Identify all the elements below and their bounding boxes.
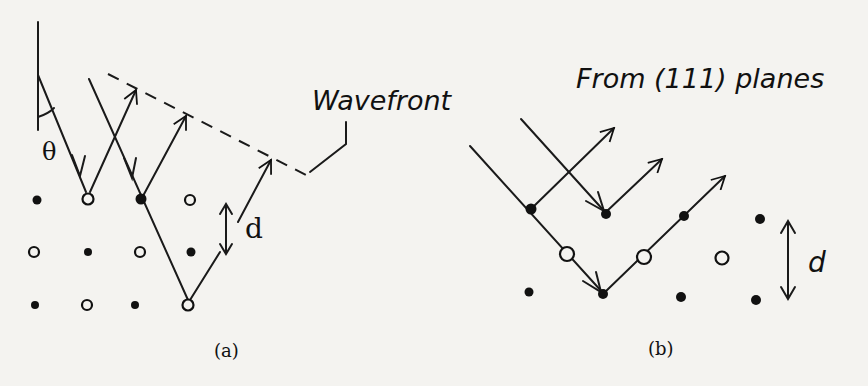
lattice-atom-open [82, 300, 92, 310]
panel-b-title: From (111) planes [576, 63, 824, 94]
lattice-atom-filled [601, 209, 611, 219]
reflected-ray-2 [143, 116, 186, 196]
wavefront-leader [310, 122, 346, 172]
panel-b-caption: (b) [648, 338, 674, 359]
lattice-atom-open [83, 194, 94, 205]
lattice-atom-filled [676, 292, 686, 302]
lattice-atom-open [135, 247, 145, 257]
wavefront-line [108, 74, 312, 178]
lattice-atom-filled [84, 248, 92, 256]
lattice-atom-filled [31, 301, 39, 309]
lattice-atom-filled [136, 194, 147, 205]
lattice-atom-filled [679, 211, 689, 221]
lattice-atom-filled [187, 248, 196, 257]
d-spacing-label: d [245, 212, 263, 245]
lattice-atom-filled [526, 204, 537, 215]
bragg-diffraction-diagram: θ Wavefront d [0, 0, 868, 386]
lattice-atom-filled [33, 196, 42, 205]
reflected-ray-2 [606, 159, 662, 212]
d-spacing-label: d [808, 246, 826, 279]
incident-ray-2 [89, 79, 188, 300]
lattice-atom-open [183, 300, 194, 311]
lattice-atom-open [560, 247, 574, 261]
panel-a-caption: (a) [214, 340, 239, 361]
reflected-ray-1 [531, 128, 614, 209]
lattice-atom-filled [755, 214, 765, 224]
lattice-atom-open [637, 250, 651, 264]
panel-a: θ Wavefront d [29, 22, 453, 361]
arrow-head-icon [124, 158, 136, 178]
lattice-atom-filled [525, 288, 534, 297]
wavefront-label: Wavefront [312, 85, 453, 116]
lattice-atom-filled [598, 289, 608, 299]
lattice-atom-open [185, 195, 195, 205]
incident-ray-1 [470, 146, 603, 293]
lattice-atom-filled [751, 295, 761, 305]
incident-ray-2 [521, 119, 605, 212]
lattice-atom-open [29, 247, 39, 257]
panel-b: From (111) planes d (b) [470, 63, 826, 359]
reflected-ray-3 [604, 176, 725, 293]
reflected-ray-3-lower [190, 252, 220, 300]
lattice-atom-open [716, 252, 729, 265]
reflected-ray-1 [90, 90, 136, 192]
lattice-atom-filled [131, 301, 139, 309]
arrow-head-icon [72, 155, 85, 176]
angle-theta-label: θ [42, 138, 56, 166]
